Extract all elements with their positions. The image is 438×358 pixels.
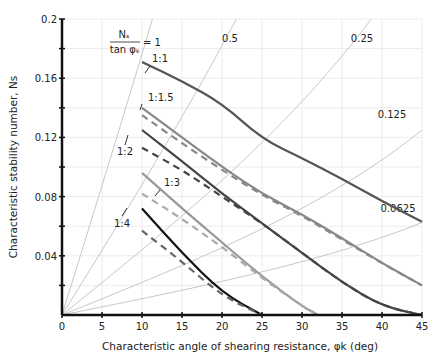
x-tick-label: 20 xyxy=(216,321,229,332)
curve-label: 1:4 xyxy=(114,218,130,229)
x-tick-label: 10 xyxy=(136,321,149,332)
labels: 1:11:1.51:21:31:4 xyxy=(114,53,180,229)
curve-label: 1:1 xyxy=(152,53,168,64)
curve-label-leader xyxy=(125,135,128,145)
curve-label-leader xyxy=(145,66,150,73)
ratio-line-label: 0.125 xyxy=(378,109,407,120)
y-tick-label: 0.16 xyxy=(35,73,57,84)
x-tick-label: 0 xyxy=(59,321,65,332)
series-line xyxy=(142,130,422,315)
x-tick-label: 5 xyxy=(99,321,105,332)
x-tick-label: 15 xyxy=(176,321,189,332)
y-axis-title: Characteristic stability number, Ns xyxy=(7,76,19,258)
curve-label: 1:1.5 xyxy=(148,92,174,103)
ratio-fraction-equals: = 1 xyxy=(143,37,161,48)
ratio-fraction-denominator: tan φₖ xyxy=(110,44,140,55)
ratio-line-label: 0.25 xyxy=(351,33,373,44)
y-tick-label: 0.12 xyxy=(35,132,57,143)
ratio-fraction-numerator: Nₛ xyxy=(118,29,129,40)
y-tick-label: 0.04 xyxy=(35,251,57,262)
x-tick-label: 45 xyxy=(416,321,429,332)
ratio-line xyxy=(62,223,422,316)
y-tick-label: 0.08 xyxy=(35,192,57,203)
x-tick-label: 25 xyxy=(256,321,269,332)
curve-label-leader xyxy=(122,208,127,216)
series-line xyxy=(142,62,422,222)
curve-label-leader xyxy=(155,190,160,196)
curve-label: 1:2 xyxy=(117,146,133,157)
ratio-line-label: 0.5 xyxy=(222,33,238,44)
series-curves xyxy=(142,62,422,315)
y-tick-label: 0.2 xyxy=(41,14,57,25)
curve-label: 1:3 xyxy=(164,177,180,188)
x-axis-title: Characteristic angle of shearing resista… xyxy=(102,340,378,352)
x-tick-label: 40 xyxy=(376,321,389,332)
x-tick-label: 35 xyxy=(336,321,349,332)
x-tick-label: 30 xyxy=(296,321,309,332)
chart: 0.50.250.1250.0625Nₛtan φₖ= 1 0510152025… xyxy=(0,0,438,358)
